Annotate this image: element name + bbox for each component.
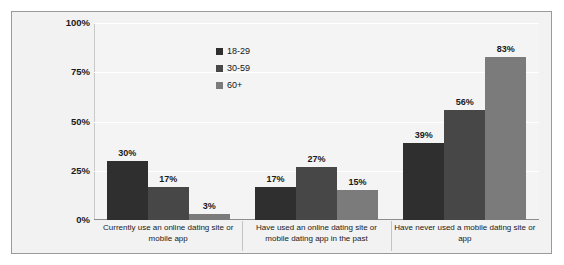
y-axis-tick-label: 0% <box>20 215 90 225</box>
bar-slot: 83% <box>485 23 526 220</box>
bar-value-label: 27% <box>296 154 337 165</box>
bar-slot: 56% <box>444 23 485 220</box>
bar[interactable] <box>403 143 444 220</box>
bar-slot: 17% <box>148 23 189 220</box>
bar[interactable] <box>148 187 189 220</box>
bar-group: 39%56%83% <box>391 23 539 220</box>
bar[interactable] <box>485 57 526 221</box>
bar[interactable] <box>107 161 148 220</box>
bar[interactable] <box>337 190 378 220</box>
y-axis: 0%25%50%75%100% <box>12 23 90 220</box>
bar-value-label: 17% <box>148 174 189 185</box>
bar-value-label: 3% <box>189 201 230 212</box>
bar-slot: 39% <box>403 23 444 220</box>
chart-figure: 0%25%50%75%100% 18-2930-5960+ 30%17%3%17… <box>11 11 552 254</box>
bar-value-label: 39% <box>403 130 444 141</box>
x-axis-category-labels: Currently use an online dating site or m… <box>94 221 539 253</box>
bar[interactable] <box>255 187 296 220</box>
y-axis-tick-label: 25% <box>20 166 90 176</box>
bar-group: 30%17%3% <box>94 23 242 220</box>
bar[interactable] <box>444 110 485 220</box>
y-axis-tick-label: 100% <box>20 18 90 28</box>
bar-slot: 15% <box>337 23 378 220</box>
y-axis-tick-label: 50% <box>20 117 90 127</box>
bar-group: 17%27%15% <box>242 23 390 220</box>
plot-area: 18-2930-5960+ 30%17%3%17%27%15%39%56%83% <box>94 23 539 220</box>
bar-slot: 30% <box>107 23 148 220</box>
bar[interactable] <box>296 167 337 220</box>
bar-value-label: 56% <box>444 97 485 108</box>
bar-value-label: 15% <box>337 177 378 188</box>
x-axis-separator <box>242 221 243 251</box>
bar-slot: 17% <box>255 23 296 220</box>
bar[interactable] <box>189 214 230 220</box>
x-axis-category-label: Have used an online dating site or mobil… <box>242 221 390 244</box>
bar-value-label: 17% <box>255 174 296 185</box>
bar-value-label: 30% <box>107 148 148 159</box>
x-axis-separator <box>391 221 392 251</box>
x-axis-category-label: Have never used a mobile dating site or … <box>391 221 539 244</box>
x-axis-category-label: Currently use an online dating site or m… <box>94 221 242 244</box>
y-axis-tick-label: 75% <box>20 67 90 77</box>
bar-slot: 27% <box>296 23 337 220</box>
bar-value-label: 83% <box>485 44 526 55</box>
bar-slot: 3% <box>189 23 230 220</box>
